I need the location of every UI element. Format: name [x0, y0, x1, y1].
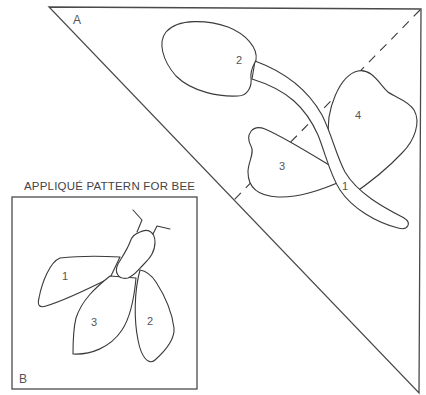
bee-label-2: 2	[147, 315, 153, 327]
antenna-right	[152, 226, 170, 236]
label-4: 4	[355, 109, 361, 121]
bee-label-3: 3	[91, 316, 97, 328]
wing-2-piece[interactable]	[135, 270, 174, 362]
label-3: 3	[279, 160, 285, 172]
panel-b-label: B	[19, 372, 27, 386]
label-2: 2	[236, 54, 242, 66]
label-1: 1	[342, 180, 348, 192]
antenna-left	[133, 210, 142, 232]
panel-b: B 1 3 2	[12, 197, 197, 389]
figure-title: APPLIQUÉ PATTERN FOR BEE	[24, 180, 195, 192]
panel-a-label: A	[73, 13, 81, 27]
bee-label-1: 1	[62, 270, 68, 282]
applique-diagram: A 2 4 3 1 APPLIQUÉ PATTERN FOR BEE B 1 3	[0, 0, 426, 395]
bee-body-piece[interactable]	[116, 230, 155, 278]
